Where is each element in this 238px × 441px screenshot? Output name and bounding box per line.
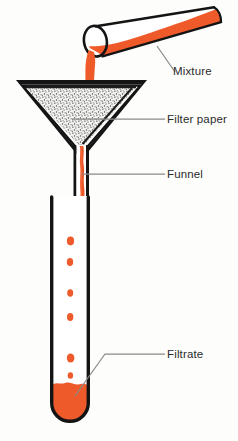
- funnel-stem-liquid-highlight: [80, 147, 82, 201]
- filter-paper: [25, 86, 136, 148]
- label-mixture: Mixture: [173, 66, 212, 78]
- droplet: [67, 353, 75, 362]
- funnel-stem-left-wall: [74, 145, 77, 203]
- droplet: [68, 372, 73, 379]
- funnel-assembly: [16, 80, 147, 203]
- droplet: [67, 313, 73, 321]
- droplet: [67, 258, 73, 266]
- droplet: [67, 237, 74, 246]
- mixture-tube: [82, 4, 228, 58]
- label-filtrate: Filtrate: [167, 349, 203, 361]
- label-funnel: Funnel: [167, 169, 203, 181]
- droplet: [67, 289, 73, 296]
- filter-paper-top-edge: [25, 86, 136, 89]
- receiving-test-tube: [51, 196, 89, 424]
- label-filter-paper: Filter paper: [167, 114, 227, 126]
- filtration-diagram: Mixture Filter paper Funnel Filtrate: [0, 0, 238, 441]
